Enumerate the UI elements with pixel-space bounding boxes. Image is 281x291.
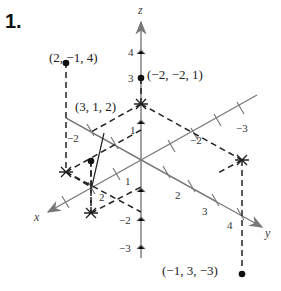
x-tick: −2 [67, 133, 79, 144]
z-tick: 1 [130, 125, 136, 136]
point-neg2-neg2-1 [138, 75, 145, 82]
z-axis-label: z [138, 4, 143, 16]
x-tick: 2 [99, 192, 105, 203]
y-axis-label: y [265, 227, 270, 239]
z-tick: −2 [119, 215, 131, 226]
point-label: (3, 1, 2) [75, 100, 116, 113]
y-tick: 4 [227, 220, 233, 231]
point-neg1-3-neg3 [239, 271, 246, 278]
y-tick: 2 [175, 190, 181, 201]
x-tick: 1 [125, 176, 131, 187]
y-tick: 3 [202, 206, 208, 217]
z-tick: 3 [128, 73, 134, 84]
point-label: (2, −1, 4) [49, 51, 98, 64]
point-3-1-2 [88, 158, 95, 165]
point-label: (−2, −2, 1) [147, 68, 203, 81]
x-axis-label: x [34, 211, 39, 223]
problem-number: 1. [5, 10, 22, 33]
coordinate-diagram [0, 0, 281, 291]
point-label: (−1, 3, −3) [162, 264, 218, 277]
y-tick: −3 [236, 123, 248, 134]
z-tick: 4 [128, 47, 134, 58]
y-tick: −2 [190, 135, 202, 146]
z-tick: −3 [119, 243, 131, 254]
